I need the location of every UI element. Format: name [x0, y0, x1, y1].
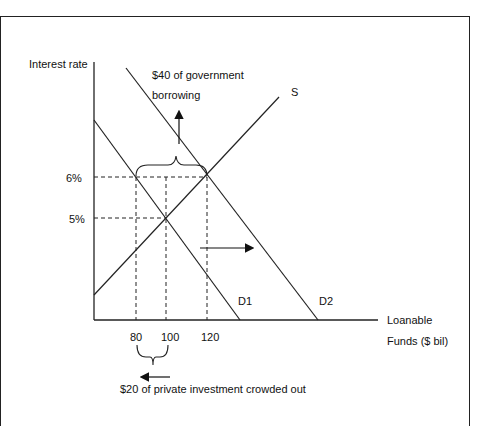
y-tick-6: 6%: [66, 172, 82, 184]
supply-label: S: [291, 86, 298, 98]
gov-borrowing-label-line1: $40 of government: [152, 69, 244, 81]
gov-borrowing-label-line2: borrowing: [152, 89, 200, 101]
x-tick-120: 120: [201, 331, 219, 343]
crowd-out-brace: [137, 345, 168, 365]
x-axis-label-line1: Loanable: [387, 314, 432, 326]
y-tick-5: 5%: [69, 213, 85, 225]
supply-curve: [94, 97, 279, 295]
gov-borrowing-brace: [136, 156, 207, 176]
crowd-out-label: $20 of private investment crowded out: [120, 383, 306, 395]
y-axis-label: Interest rate: [29, 58, 88, 70]
demand-curve-d2: [126, 68, 318, 320]
demand1-label: D1: [238, 295, 252, 307]
x-tick-80: 80: [130, 331, 142, 343]
guide-lines: [94, 177, 207, 320]
demand-curve-d1: [94, 120, 240, 320]
demand2-label: D2: [319, 295, 333, 307]
x-axis-label-line2: Funds ($ bil): [387, 335, 448, 347]
x-tick-100: 100: [161, 331, 179, 343]
